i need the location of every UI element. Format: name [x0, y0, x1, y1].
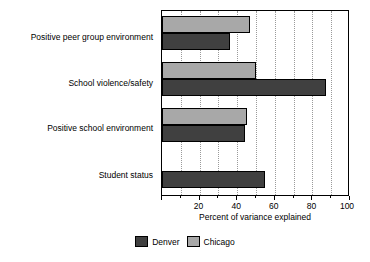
legend-label-chicago: Chicago — [204, 237, 235, 247]
bar-chicago-2 — [162, 108, 247, 125]
tick-minor-10 — [180, 196, 181, 198]
category-label-2: Positive school environment — [47, 123, 153, 133]
bar-chicago-1 — [162, 62, 256, 79]
legend-label-denver: Denver — [152, 237, 179, 247]
bar-group-0 — [162, 16, 348, 54]
tick-major-60 — [274, 196, 275, 200]
bar-group-1 — [162, 62, 348, 100]
tick-major-20 — [199, 196, 200, 200]
x-axis-title: Percent of variance explained — [161, 212, 349, 222]
bar-denver-3 — [162, 171, 265, 188]
tick-minor-90 — [330, 196, 331, 198]
bar-denver-0 — [162, 33, 230, 50]
xtick-label-60: 60 — [269, 201, 278, 211]
category-label-1: School violence/safety — [68, 78, 153, 88]
xtick-label-40: 40 — [231, 201, 240, 211]
legend-item-denver: Denver — [135, 236, 179, 247]
bar-denver-2 — [162, 125, 245, 142]
bar-group-3 — [162, 157, 348, 195]
xtick-label-20: 20 — [194, 201, 203, 211]
category-label-0: Positive peer group environment — [31, 32, 153, 42]
chart-legend: Denver Chicago — [0, 236, 370, 247]
bar-chicago-0 — [162, 16, 250, 33]
tick-major-0 — [161, 196, 162, 200]
plot-area — [161, 10, 349, 196]
tick-minor-50 — [255, 196, 256, 198]
bar-denver-1 — [162, 79, 326, 96]
tick-minor-30 — [217, 196, 218, 198]
legend-item-chicago: Chicago — [187, 236, 235, 247]
tick-major-40 — [236, 196, 237, 200]
bar-group-2 — [162, 108, 348, 146]
legend-swatch-chicago-icon — [187, 236, 200, 247]
tick-minor-70 — [293, 196, 294, 198]
bar-chart: Positive peer group environment School v… — [0, 0, 370, 262]
xtick-label-100: 100 — [340, 201, 354, 211]
tick-major-80 — [311, 196, 312, 200]
xtick-label-80: 80 — [307, 201, 316, 211]
category-axis-labels: Positive peer group environment School v… — [0, 10, 157, 196]
legend-swatch-denver-icon — [135, 236, 148, 247]
category-label-3: Student status — [99, 170, 153, 180]
tick-major-100 — [349, 196, 350, 200]
